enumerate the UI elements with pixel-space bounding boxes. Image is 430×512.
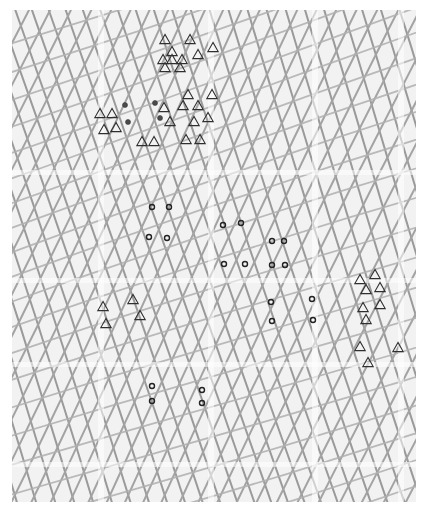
marker-triangle bbox=[207, 89, 217, 98]
marker-circle bbox=[310, 297, 315, 302]
marker-triangle bbox=[189, 116, 199, 125]
plot-area bbox=[12, 10, 416, 502]
marker-triangle bbox=[98, 301, 108, 310]
series-triangle-cluster-right bbox=[355, 269, 403, 366]
marker-circle bbox=[270, 263, 275, 268]
marker-triangle bbox=[159, 102, 169, 111]
marker-triangle bbox=[203, 112, 213, 121]
marker-layer bbox=[12, 10, 416, 502]
marker-circle bbox=[243, 262, 248, 267]
marker-triangle bbox=[375, 282, 385, 291]
marker-circle bbox=[200, 388, 205, 393]
marker-circle bbox=[311, 318, 316, 323]
marker-triangle bbox=[160, 34, 170, 43]
marker-triangle bbox=[101, 318, 111, 327]
series-dot-cluster-upper-left bbox=[123, 101, 163, 125]
marker-triangle bbox=[193, 100, 203, 109]
marker-triangle bbox=[149, 136, 159, 145]
marker-triangle bbox=[195, 134, 205, 143]
marker-triangle bbox=[193, 49, 203, 58]
marker-triangle bbox=[177, 54, 187, 63]
series-circle-cluster-lower-right bbox=[269, 297, 316, 324]
marker-circle bbox=[222, 262, 227, 267]
marker-triangle bbox=[208, 42, 218, 51]
marker-circle bbox=[165, 236, 170, 241]
marker-circle bbox=[167, 205, 172, 210]
marker-dot bbox=[123, 103, 128, 108]
series-triangle-cluster-upper bbox=[95, 34, 218, 145]
marker-triangle bbox=[375, 299, 385, 308]
marker-triangle bbox=[95, 108, 105, 117]
marker-dot bbox=[153, 101, 158, 106]
marker-triangle bbox=[355, 274, 365, 283]
marker-triangle bbox=[358, 302, 368, 311]
marker-dot bbox=[126, 120, 131, 125]
marker-triangle bbox=[107, 108, 117, 117]
marker-circle bbox=[221, 223, 226, 228]
marker-triangle bbox=[111, 122, 121, 131]
marker-dot bbox=[158, 116, 163, 121]
marker-triangle bbox=[99, 124, 109, 133]
marker-circle bbox=[239, 221, 244, 226]
marker-triangle bbox=[181, 134, 191, 143]
marker-triangle bbox=[355, 341, 365, 350]
marker-triangle bbox=[135, 310, 145, 319]
marker-triangle bbox=[393, 342, 403, 351]
marker-circle bbox=[270, 319, 275, 324]
marker-triangle bbox=[183, 89, 193, 98]
marker-circle bbox=[282, 239, 287, 244]
marker-circle bbox=[150, 384, 155, 389]
marker-circle bbox=[200, 401, 205, 406]
marker-circle bbox=[150, 205, 155, 210]
marker-circle bbox=[147, 235, 152, 240]
marker-circle bbox=[150, 399, 155, 404]
marker-triangle bbox=[361, 284, 371, 293]
marker-triangle bbox=[363, 357, 373, 366]
marker-triangle bbox=[361, 314, 371, 323]
marker-circle bbox=[269, 300, 274, 305]
marker-triangle bbox=[370, 269, 380, 278]
marker-circle bbox=[283, 263, 288, 268]
series-circle-cluster-center bbox=[147, 205, 288, 268]
marker-triangle bbox=[137, 136, 147, 145]
marker-triangle bbox=[185, 34, 195, 43]
marker-circle bbox=[270, 239, 275, 244]
series-circle-cluster-lower-left bbox=[150, 384, 205, 406]
marker-triangle bbox=[165, 116, 175, 125]
marker-triangle bbox=[178, 100, 188, 109]
series-triangle-cluster-lower-left bbox=[98, 294, 145, 327]
figure-root bbox=[0, 0, 430, 512]
marker-triangle bbox=[128, 294, 138, 303]
